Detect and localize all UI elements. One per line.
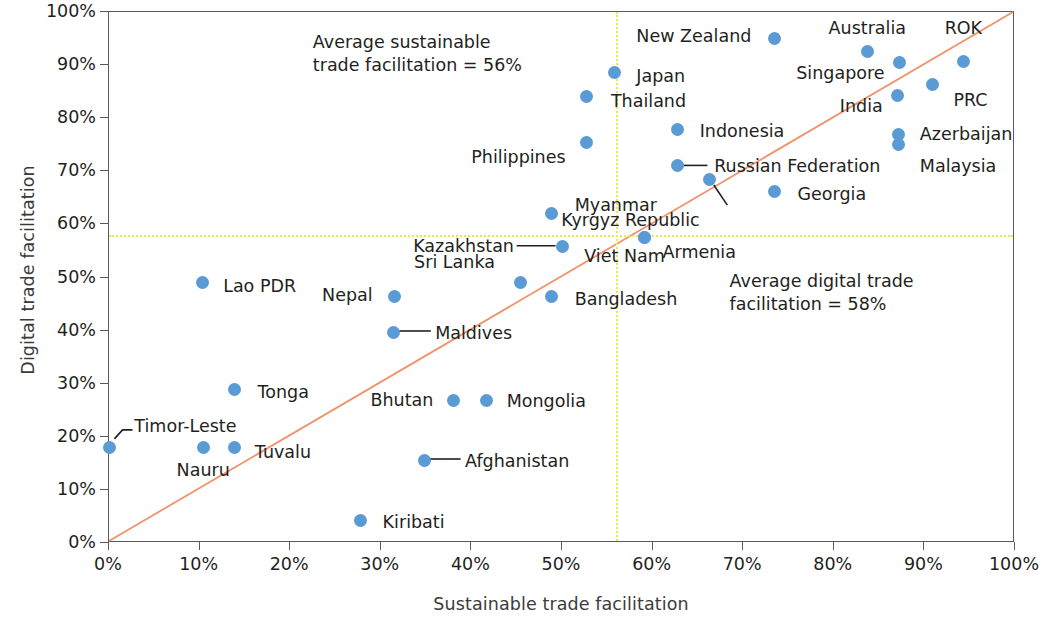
x-tick-mark	[923, 542, 924, 550]
data-point[interactable]	[447, 394, 460, 407]
y-tick-mark	[100, 383, 108, 384]
x-tick-mark	[742, 542, 743, 550]
y-tick-label: 70%	[0, 160, 96, 180]
data-point-label: Australia	[829, 20, 906, 38]
x-tick-label: 40%	[451, 554, 490, 574]
x-tick-label: 80%	[813, 554, 852, 574]
data-point-label: Nauru	[177, 463, 230, 481]
data-point-label: Kiribati	[383, 514, 445, 532]
data-point-label: ROK	[945, 20, 982, 38]
data-point-label: Kazakhstan	[413, 238, 514, 256]
y-tick-label: 30%	[0, 373, 96, 393]
data-point[interactable]	[545, 290, 558, 303]
data-point[interactable]	[545, 207, 558, 220]
data-point[interactable]	[354, 514, 367, 527]
x-tick-mark	[833, 542, 834, 550]
data-point-label: India	[840, 98, 883, 116]
x-tick-label: 50%	[542, 554, 581, 574]
data-point-label: Maldives	[435, 326, 512, 344]
data-point-label: Viet Nam	[584, 248, 665, 266]
data-point-label: Timor-Leste	[134, 418, 236, 436]
data-point[interactable]	[388, 290, 401, 303]
data-point[interactable]	[608, 66, 621, 79]
x-tick-mark	[380, 542, 381, 550]
y-tick-mark	[100, 277, 108, 278]
data-point[interactable]	[418, 454, 431, 467]
data-point-label: Philippines	[471, 149, 565, 167]
data-point-label: Afghanistan	[465, 454, 569, 472]
y-tick-mark	[100, 436, 108, 437]
x-tick-label: 20%	[270, 554, 309, 574]
data-point[interactable]	[103, 441, 116, 454]
data-point-label: Malaysia	[920, 158, 996, 176]
y-tick-label: 0%	[0, 532, 96, 552]
data-point-label: PRC	[953, 92, 987, 110]
x-tick-mark	[561, 542, 562, 550]
avg-sustainable-note: Average sustainable trade facilitation =…	[313, 31, 522, 78]
data-point-label: Azerbaijan	[920, 126, 1013, 144]
y-tick-label: 20%	[0, 426, 96, 446]
data-point-label: Georgia	[798, 186, 867, 204]
data-point-label: Tuvalu	[255, 444, 311, 462]
x-tick-mark	[1014, 542, 1015, 550]
data-point-label: Indonesia	[700, 123, 785, 141]
x-tick-label: 100%	[989, 554, 1039, 574]
y-tick-label: 80%	[0, 107, 96, 127]
y-tick-label: 10%	[0, 479, 96, 499]
plot-area: Timor-LesteNauruTuvaluLao PDRTongaKiriba…	[108, 11, 1014, 542]
avg-digital-note: Average digital trade facilitation = 58%	[730, 270, 914, 317]
y-tick-mark	[100, 170, 108, 171]
leader-line	[714, 185, 728, 205]
y-tick-label: 90%	[0, 54, 96, 74]
data-point[interactable]	[580, 136, 593, 149]
x-tick-mark	[652, 542, 653, 550]
x-tick-mark	[199, 542, 200, 550]
x-tick-label: 60%	[632, 554, 671, 574]
y-tick-label: 100%	[0, 1, 96, 21]
scatter-chart-figure: Digital trade facilitation Sustainable t…	[0, 0, 1045, 621]
x-tick-mark	[108, 542, 109, 550]
y-tick-mark	[100, 330, 108, 331]
y-tick-mark	[100, 223, 108, 224]
x-tick-label: 0%	[94, 554, 122, 574]
data-point-label: Kyrgyz Republic	[561, 212, 699, 230]
data-point[interactable]	[387, 326, 400, 339]
data-point-label: Mongolia	[507, 393, 586, 411]
y-tick-mark	[100, 64, 108, 65]
data-point-label: Bangladesh	[575, 291, 678, 309]
x-tick-mark	[289, 542, 290, 550]
data-point[interactable]	[892, 138, 905, 151]
y-tick-label: 40%	[0, 320, 96, 340]
data-point-label: Lao PDR	[223, 278, 296, 296]
data-point-label: Tonga	[258, 384, 309, 402]
data-point[interactable]	[768, 32, 781, 45]
x-tick-label: 30%	[360, 554, 399, 574]
data-point-label: Sri Lanka	[414, 254, 495, 272]
data-point-label: New Zealand	[636, 28, 751, 46]
x-axis-title: Sustainable trade facilitation	[108, 594, 1014, 614]
data-point-label: Japan	[636, 69, 685, 87]
x-tick-label: 70%	[723, 554, 762, 574]
y-tick-label: 60%	[0, 213, 96, 233]
x-tick-label: 10%	[179, 554, 218, 574]
data-point-label: Russian Federation	[714, 158, 880, 176]
data-point[interactable]	[197, 441, 210, 454]
data-point-label: Armenia	[663, 244, 736, 262]
y-tick-mark	[100, 11, 108, 12]
data-point-label: Thailand	[611, 94, 686, 112]
y-tick-label: 50%	[0, 267, 96, 287]
y-tick-mark	[100, 117, 108, 118]
y-tick-mark	[100, 489, 108, 490]
data-point-label: Nepal	[322, 287, 373, 305]
data-point-label: Bhutan	[370, 392, 433, 410]
x-tick-mark	[470, 542, 471, 550]
data-point-label: Singapore	[796, 65, 884, 83]
x-tick-label: 90%	[904, 554, 943, 574]
y-tick-mark	[100, 542, 108, 543]
leader-line	[114, 430, 132, 439]
